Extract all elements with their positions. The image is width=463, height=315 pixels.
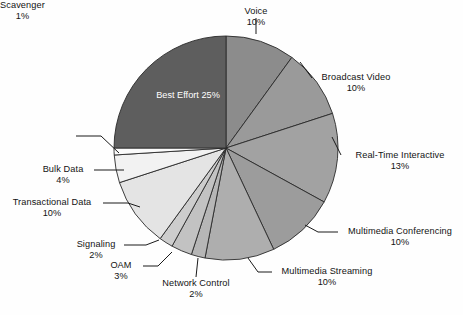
slice-label-voice: Voice 10% <box>224 6 288 29</box>
slice-label-voice-percent: 10% <box>224 17 288 28</box>
slice-label-multimedia-conferencing: Multimedia Conferencing 10% <box>338 226 462 249</box>
slice-label-transactional-data: Transactional Data 10% <box>2 197 102 220</box>
slice-label-signaling-name: Signaling <box>77 239 116 249</box>
pie-chart-figure: Best Effort 25% Voice 10% Broadcast Vide… <box>0 0 463 315</box>
slice-label-scavenger-percent: 1% <box>0 11 45 22</box>
slice-label-signaling: Signaling 2% <box>70 239 122 262</box>
slice-label-multimedia-streaming-name: Multimedia Streaming <box>282 266 373 276</box>
slice-label-voice-name: Voice <box>245 6 268 16</box>
slice-label-best-effort: Best Effort 25% <box>147 90 229 101</box>
slice-label-oam: OAM 3% <box>101 260 141 283</box>
slice-label-scavenger-name: Scavenger <box>0 0 45 10</box>
slice-label-signaling-percent: 2% <box>70 250 122 261</box>
slice-label-broadcast-video-name: Broadcast Video <box>322 72 391 82</box>
slice-label-real-time-interactive: Real-Time Interactive 13% <box>341 150 459 173</box>
leader-line-multimedia-streaming <box>248 258 272 272</box>
leader-line-network-control <box>196 258 198 277</box>
slice-label-bulk-data-percent: 4% <box>34 175 92 186</box>
slice-label-broadcast-video: Broadcast Video 10% <box>311 72 401 95</box>
pie-slice-group <box>114 36 338 260</box>
slice-label-best-effort-percent: 25% <box>201 90 219 100</box>
slice-label-real-time-interactive-name: Real-Time Interactive <box>355 150 444 160</box>
slice-label-network-control-name: Network Control <box>162 278 229 288</box>
slice-label-multimedia-conferencing-name: Multimedia Conferencing <box>348 226 452 236</box>
slice-label-bulk-data-name: Bulk Data <box>43 164 84 174</box>
slice-label-multimedia-streaming: Multimedia Streaming 10% <box>271 266 383 289</box>
slice-label-oam-percent: 3% <box>101 271 141 282</box>
slice-label-broadcast-video-percent: 10% <box>311 83 401 94</box>
leader-line-oam <box>143 252 172 266</box>
slice-label-best-effort-name: Best Effort <box>156 90 199 100</box>
slice-label-network-control-percent: 2% <box>152 289 240 300</box>
slice-label-multimedia-conferencing-percent: 10% <box>338 237 462 248</box>
leader-line-scavenger <box>76 136 119 153</box>
leader-line-multimedia-conferencing <box>305 225 338 232</box>
slice-label-scavenger: Scavenger 1% <box>0 0 45 23</box>
slice-label-multimedia-streaming-percent: 10% <box>271 277 383 288</box>
slice-label-transactional-data-name: Transactional Data <box>13 197 92 207</box>
slice-label-real-time-interactive-percent: 13% <box>341 161 459 172</box>
leader-line-signaling <box>124 240 159 245</box>
slice-label-network-control: Network Control 2% <box>152 278 240 301</box>
slice-label-bulk-data: Bulk Data 4% <box>34 164 92 187</box>
slice-label-transactional-data-percent: 10% <box>2 208 102 219</box>
